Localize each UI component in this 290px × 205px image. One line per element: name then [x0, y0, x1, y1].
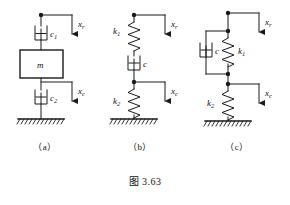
spring-b-k1 [128, 22, 140, 51]
label-b-k2: k2 [113, 96, 121, 107]
panel-caption-c: （c） [192, 140, 282, 153]
label-b-k1: k1 [113, 26, 120, 37]
figure-3-63: c1 m c2 xr xc k1 c k2 xr xc c k1 k2 xr x… [0, 0, 290, 205]
label-a-m: m [37, 60, 44, 70]
panel-caption-a: （a） [0, 140, 90, 153]
ground-hatch-a [17, 119, 64, 124]
label-a-c2: c2 [50, 93, 58, 104]
spring-c-k1 [222, 38, 234, 67]
label-c-xr: xr [264, 17, 272, 28]
panel-caption-b: （b） [95, 140, 185, 153]
label-a-c1: c1 [50, 29, 57, 40]
figure-caption: 图 3.63 [0, 173, 290, 188]
ground-hatch-b [110, 119, 157, 124]
label-a-xc: xc [77, 86, 85, 97]
label-c-k2: k2 [207, 98, 215, 109]
panel-c [200, 11, 259, 126]
label-b-xr: xr [170, 19, 178, 30]
label-b-c: c [143, 59, 147, 69]
ground-hatch-c [204, 121, 251, 126]
label-c-c: c [215, 46, 219, 56]
label-c-k1: k1 [238, 46, 245, 57]
label-a-xr: xr [77, 19, 85, 30]
spring-b-k2 [128, 89, 140, 118]
label-b-xc: xc [170, 86, 178, 97]
panel-a [17, 13, 72, 124]
spring-c-k2 [222, 91, 234, 120]
label-c-xc: xc [264, 88, 272, 99]
